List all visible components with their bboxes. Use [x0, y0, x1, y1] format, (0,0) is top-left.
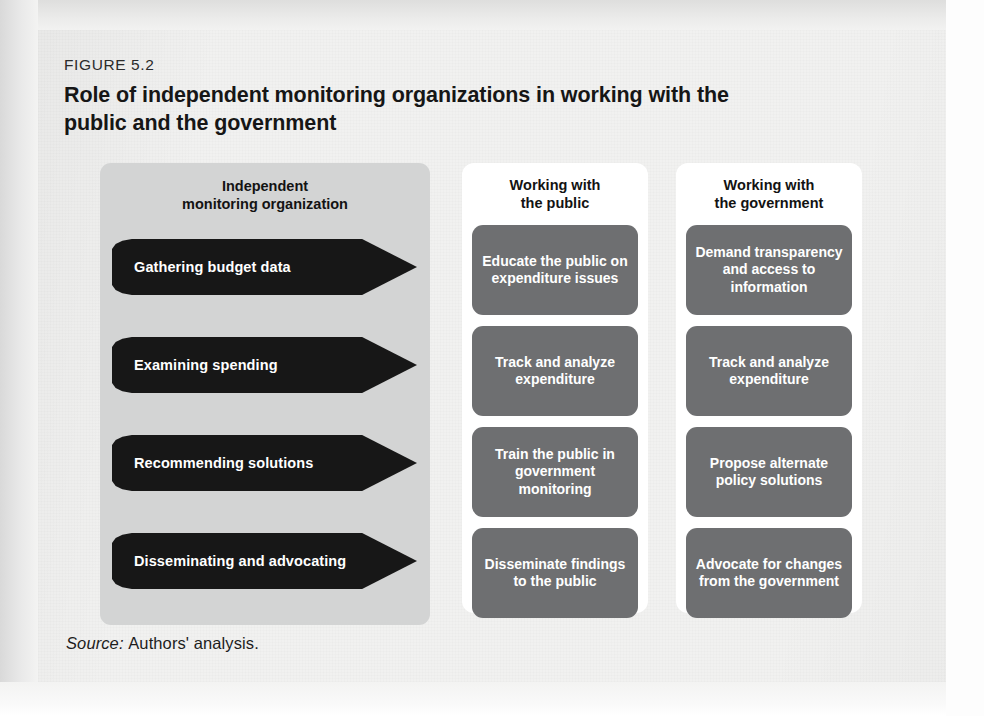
arrow-disseminating-and-advocating[interactable]: Disseminating and advocating: [112, 533, 417, 589]
source-note: Source: Authors' analysis.: [66, 634, 259, 653]
task-box-propose-alternate-policy-solutions[interactable]: Propose alternate policy solutions: [686, 427, 852, 517]
arrow-label: Gathering budget data: [134, 239, 291, 295]
panel-header-line-1: Independent: [100, 177, 430, 195]
task-box-track-and-analyze-expenditure[interactable]: Track and analyze expenditure: [472, 326, 638, 416]
arrow-gathering-budget-data[interactable]: Gathering budget data: [112, 239, 417, 295]
panel-working-with-the-government: Working with the government Demand trans…: [676, 163, 862, 613]
arrow-label: Examining spending: [134, 337, 278, 393]
scanned-page-background: FIGURE 5.2 Role of independent monitorin…: [0, 0, 984, 716]
diagram-canvas: Independent monitoring organization Gath…: [0, 0, 984, 716]
source-label: Source:: [66, 634, 124, 652]
column-header-line-1: Working with: [462, 176, 648, 194]
task-box-educate-the-public[interactable]: Educate the public on expenditure issues: [472, 225, 638, 315]
panel-header-line-2: monitoring organization: [100, 195, 430, 213]
task-box-demand-transparency[interactable]: Demand transparency and access to inform…: [686, 225, 852, 315]
task-box-track-and-analyze-expenditure[interactable]: Track and analyze expenditure: [686, 326, 852, 416]
arrow-examining-spending[interactable]: Examining spending: [112, 337, 417, 393]
panel-header-independent-monitoring-organization: Independent monitoring organization: [100, 177, 430, 213]
arrow-label: Recommending solutions: [134, 435, 313, 491]
column-header-line-2: the government: [676, 194, 862, 212]
task-box-train-the-public[interactable]: Train the public in government monitorin…: [472, 427, 638, 517]
task-box-advocate-for-changes[interactable]: Advocate for changes from the government: [686, 528, 852, 618]
column-header-working-with-the-public: Working with the public: [462, 176, 648, 212]
column-header-line-1: Working with: [676, 176, 862, 194]
task-box-disseminate-findings[interactable]: Disseminate findings to the public: [472, 528, 638, 618]
panel-working-with-the-public: Working with the public Educate the publ…: [462, 163, 648, 613]
arrow-label: Disseminating and advocating: [134, 533, 346, 589]
source-text: Authors' analysis.: [128, 634, 259, 652]
arrow-recommending-solutions[interactable]: Recommending solutions: [112, 435, 417, 491]
column-header-working-with-the-government: Working with the government: [676, 176, 862, 212]
column-header-line-2: the public: [462, 194, 648, 212]
